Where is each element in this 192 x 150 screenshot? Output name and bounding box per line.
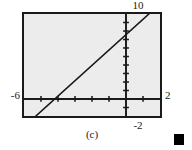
filled-square-marker-icon [174, 134, 184, 145]
figure-caption: (c) [0, 128, 184, 140]
x-min-label: -6 [1, 90, 20, 101]
y-max-label: 10 [128, 0, 148, 11]
plot-canvas [24, 14, 160, 116]
x-max-label: 2 [165, 90, 185, 101]
figure-panel: 10 -2 -6 2 (c) [0, 0, 192, 150]
plot-window [22, 12, 162, 118]
